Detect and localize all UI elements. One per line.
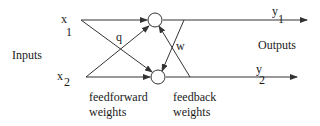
w-weight-label: w [176, 39, 185, 53]
feedback-label-line2: weights [173, 105, 211, 119]
x2-variable: x [57, 69, 63, 83]
y2-subscript: 2 [259, 73, 265, 87]
x1-subscript: 1 [66, 25, 72, 39]
inputs-label: Inputs [12, 48, 42, 62]
outputs-label: Outputs [258, 38, 296, 52]
feedforward-label-line2: weights [89, 105, 127, 119]
x1-variable: x [61, 12, 67, 26]
edge-feedback-y2-to-n1 [159, 26, 190, 77]
q-weight-label: q [116, 30, 122, 44]
x2-subscript: 2 [64, 75, 70, 89]
output-unit-1 [148, 13, 162, 27]
output-unit-2 [151, 70, 165, 84]
network-diagram: Inputs x 1 x 2 q w y 1 y 2 Outputs feedf… [0, 0, 320, 126]
edge-x1-to-n2 [81, 20, 152, 72]
feedforward-label-line1: feedforward [89, 90, 148, 104]
y1-subscript: 1 [278, 12, 284, 26]
feedback-label-line1: feedback [173, 90, 216, 104]
